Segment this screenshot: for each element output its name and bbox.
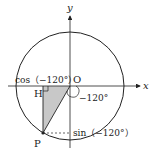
sin-label: sin（−120°） [73,128,134,138]
angle-label: −120° [79,93,108,103]
point-p-label: P [34,138,41,149]
point-p [41,131,44,134]
unit-circle-diagram: y x O cos（−120°） H −120° sin（−120°） P [0,0,158,160]
x-axis-label: x [143,80,149,91]
y-axis-label: y [66,2,73,13]
cos-label: cos（−120°） [15,75,77,85]
point-h-label: H [34,88,43,99]
